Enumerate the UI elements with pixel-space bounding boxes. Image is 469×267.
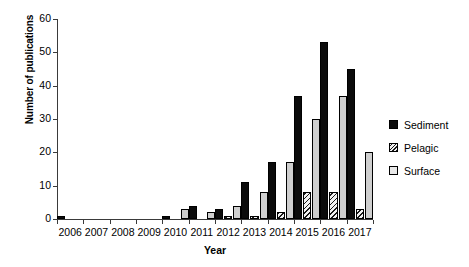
y-tick-label: 30 <box>39 112 51 124</box>
x-tick-label: 2014 <box>269 226 292 239</box>
x-tick-mark <box>136 220 137 224</box>
x-tick-mark <box>241 220 242 224</box>
bar-sediment-2013 <box>241 182 249 219</box>
chart-legend: SedimentPelagicSurface <box>389 113 469 182</box>
x-tick-mark <box>83 220 84 224</box>
x-tick-label: 2006 <box>58 226 81 239</box>
y-tick-mark <box>53 152 57 153</box>
bar-sediment-2014 <box>268 162 276 219</box>
x-tick-mark <box>347 220 348 224</box>
bar-pelagic-2013 <box>250 216 258 219</box>
x-tick-mark <box>268 220 269 224</box>
bar-sediment-2017 <box>347 69 355 219</box>
x-tick-label: 2008 <box>111 226 134 239</box>
x-tick-mark <box>189 220 190 224</box>
x-tick-label: 2013 <box>243 226 266 239</box>
legend-swatch-pelagic-icon <box>389 143 398 152</box>
y-tick-mark <box>53 119 57 120</box>
y-tick-label: 0 <box>45 212 51 224</box>
bar-pelagic-2016 <box>329 192 337 219</box>
x-tick-label: 2016 <box>322 226 345 239</box>
bar-sediment-2006 <box>57 216 65 219</box>
bar-pelagic-2012 <box>224 216 232 219</box>
bar-pelagic-2017 <box>356 209 364 219</box>
y-tick-mark <box>53 86 57 87</box>
bar-sediment-2012 <box>215 209 223 219</box>
bar-sediment-2015 <box>294 96 302 219</box>
legend-item-label: Pelagic <box>404 142 438 154</box>
x-tick-mark <box>57 220 58 224</box>
x-tick-mark <box>294 220 295 224</box>
x-tick-label: 2011 <box>191 226 214 239</box>
y-axis-line <box>57 19 58 220</box>
x-tick-label: 2009 <box>137 226 160 239</box>
y-axis-title: Number of publications <box>24 0 35 155</box>
x-tick-label: 2012 <box>216 226 239 239</box>
x-tick-label: 2017 <box>348 226 371 239</box>
x-tick-mark <box>373 220 374 224</box>
x-tick-label: 2007 <box>85 226 108 239</box>
plot-area: 0102030405060 20062007200820092010201120… <box>57 19 373 219</box>
legend-swatch-surface-icon <box>389 166 398 175</box>
bar-sediment-2016 <box>320 42 328 219</box>
legend-item-sediment[interactable]: Sediment <box>389 113 469 136</box>
y-tick-label: 10 <box>39 179 51 191</box>
legend-swatch-sediment-icon <box>389 120 398 129</box>
y-tick-label: 20 <box>39 145 51 157</box>
y-tick-label: 60 <box>39 12 51 24</box>
bar-surface-2017 <box>365 152 373 219</box>
y-tick-mark <box>53 52 57 53</box>
bar-sediment-2010 <box>162 216 170 219</box>
bar-sediment-2011 <box>189 206 197 219</box>
publications-by-year-bar-chart: Number of publications 0102030405060 200… <box>0 0 469 267</box>
legend-item-pelagic[interactable]: Pelagic <box>389 136 469 159</box>
y-tick-mark <box>53 186 57 187</box>
bar-pelagic-2015 <box>303 192 311 219</box>
y-tick-label: 40 <box>39 79 51 91</box>
x-tick-label: 2010 <box>164 226 187 239</box>
x-tick-mark <box>320 220 321 224</box>
legend-item-label: Surface <box>404 165 440 177</box>
x-axis-title: Year <box>57 244 373 256</box>
legend-item-surface[interactable]: Surface <box>389 159 469 182</box>
y-tick-mark <box>53 19 57 20</box>
y-tick-label: 50 <box>39 45 51 57</box>
x-tick-mark <box>215 220 216 224</box>
bar-pelagic-2014 <box>277 212 285 219</box>
x-tick-mark <box>162 220 163 224</box>
x-tick-mark <box>110 220 111 224</box>
x-tick-label: 2015 <box>295 226 318 239</box>
legend-item-label: Sediment <box>404 119 448 131</box>
